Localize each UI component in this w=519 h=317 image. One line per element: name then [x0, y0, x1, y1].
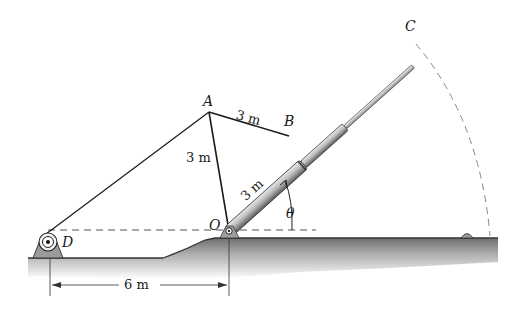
label-point-b: B	[283, 113, 294, 129]
dim-ab: 3 m	[235, 107, 263, 128]
mechanics-diagram: A B C D O θ 3 m 3 m 3 m 6 m	[0, 0, 519, 317]
dim-ao: 3 m	[186, 150, 211, 165]
hydraulic-cylinder	[225, 62, 417, 236]
ground	[28, 238, 498, 279]
label-point-d: D	[61, 234, 73, 250]
label-point-c: C	[405, 18, 416, 34]
link-ao	[209, 112, 229, 231]
cable-da	[46, 112, 209, 234]
label-point-o: O	[209, 217, 221, 233]
label-point-a: A	[201, 93, 213, 109]
pulley-d	[33, 233, 63, 258]
label-angle-theta: θ	[286, 205, 295, 221]
ground-stop-bump	[461, 234, 473, 239]
arc-path-of-c	[416, 44, 490, 236]
dim-do: 6 m	[124, 277, 149, 292]
